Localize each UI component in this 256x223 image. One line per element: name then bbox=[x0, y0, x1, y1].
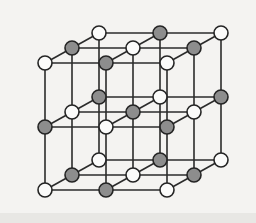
lattice-atom-dark bbox=[38, 120, 52, 134]
bottom-edge-shade bbox=[0, 213, 256, 223]
atom-layer bbox=[38, 26, 228, 197]
lattice-atom-light bbox=[38, 56, 52, 70]
lattice-atom-light bbox=[160, 183, 174, 197]
lattice-atom-light bbox=[65, 105, 79, 119]
lattice-atom-dark bbox=[187, 41, 201, 55]
lattice-atom-dark bbox=[99, 56, 113, 70]
lattice-atom-dark bbox=[160, 120, 174, 134]
lattice-atom-light bbox=[99, 120, 113, 134]
lattice-atom-dark bbox=[65, 168, 79, 182]
lattice-diagram bbox=[0, 0, 256, 223]
lattice-atom-light bbox=[38, 183, 52, 197]
lattice-atom-dark bbox=[153, 153, 167, 167]
lattice-atom-dark bbox=[214, 90, 228, 104]
lattice-atom-light bbox=[92, 26, 106, 40]
crystal-lattice-figure bbox=[0, 0, 256, 223]
lattice-atom-light bbox=[92, 153, 106, 167]
lattice-atom-dark bbox=[65, 41, 79, 55]
lattice-atom-light bbox=[160, 56, 174, 70]
lattice-atom-dark bbox=[187, 168, 201, 182]
lattice-atom-light bbox=[126, 41, 140, 55]
lattice-atom-light bbox=[214, 153, 228, 167]
lattice-atom-light bbox=[153, 90, 167, 104]
lattice-atom-dark bbox=[92, 90, 106, 104]
lattice-atom-dark bbox=[126, 105, 140, 119]
lattice-atom-dark bbox=[153, 26, 167, 40]
lattice-atom-light bbox=[187, 105, 201, 119]
lattice-atom-light bbox=[214, 26, 228, 40]
lattice-atom-light bbox=[126, 168, 140, 182]
lattice-atom-dark bbox=[99, 183, 113, 197]
